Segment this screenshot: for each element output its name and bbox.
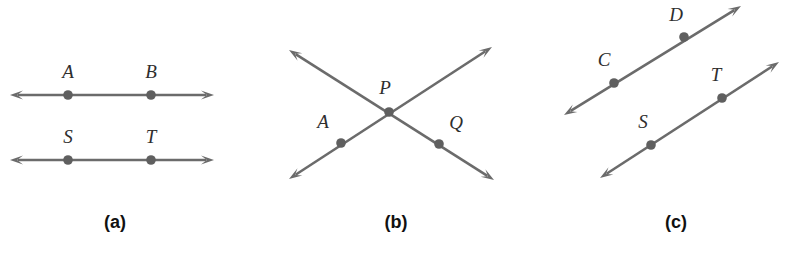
- line-ST: [607, 66, 773, 174]
- point-B-dot: [146, 90, 156, 100]
- point-T-label: T: [711, 64, 723, 85]
- point-S-label: S: [63, 126, 73, 147]
- line-CD-arrow-start-icon: [564, 104, 577, 115]
- point-Q-dot: [434, 139, 444, 149]
- point-C-label: C: [598, 49, 611, 70]
- point-A-dot: [336, 138, 346, 148]
- geometry-figure: ABST(a)PAQ(b)CDST(c): [0, 0, 793, 257]
- point-S-dot: [63, 155, 73, 165]
- point-B-label: B: [145, 61, 157, 82]
- point-A-dot: [63, 90, 73, 100]
- point-T-dot: [717, 93, 727, 103]
- point-D-label: D: [668, 4, 683, 25]
- panel-c-caption: (c): [665, 212, 687, 232]
- line-CD-arrow-end-icon: [728, 6, 741, 17]
- point-T-dot: [146, 155, 156, 165]
- point-P-dot: [384, 107, 394, 117]
- line-CD: [571, 10, 735, 111]
- point-T-label: T: [146, 126, 158, 147]
- point-S-label: S: [638, 111, 648, 132]
- point-S-dot: [646, 140, 656, 150]
- point-A-label: A: [60, 61, 74, 82]
- point-P-label: P: [378, 77, 391, 98]
- panel-b-caption: (b): [385, 212, 408, 232]
- panel-b: PAQ(b): [289, 47, 494, 232]
- panel-c: CDST(c): [564, 4, 779, 232]
- point-C-dot: [609, 78, 619, 88]
- panel-a-caption: (a): [104, 212, 126, 232]
- point-A-label: A: [315, 111, 329, 132]
- point-Q-label: Q: [449, 112, 463, 133]
- point-D-dot: [679, 32, 689, 42]
- figure-canvas: ABST(a)PAQ(b)CDST(c): [0, 0, 793, 257]
- panel-a: ABST(a): [10, 61, 214, 232]
